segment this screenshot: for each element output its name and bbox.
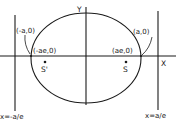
right-focus-name: S bbox=[123, 65, 128, 74]
left-vertex-label: (-a,0) bbox=[16, 27, 35, 35]
y-axis-label: Y bbox=[76, 5, 82, 14]
right-vertex-label: (a,0) bbox=[133, 28, 150, 36]
left-focus-point bbox=[44, 61, 47, 64]
right-focus-point bbox=[125, 61, 128, 64]
left-directrix-label: x=-a/e bbox=[0, 113, 24, 121]
right-vertex-leader bbox=[142, 37, 152, 55]
left-vertex-point bbox=[30, 55, 32, 57]
left-vertex-leader bbox=[25, 35, 30, 54]
ellipse-diagram: Y X (-a,0) (a,0) (-ae,0) (ae,0) S' S x=-… bbox=[0, 0, 176, 133]
right-focus-coord-label: (ae,0) bbox=[112, 47, 133, 55]
x-axis-label: X bbox=[161, 59, 166, 68]
left-focus-coord-label: (-ae,0) bbox=[33, 47, 57, 55]
left-focus-name: S' bbox=[41, 65, 48, 74]
right-directrix-label: x=a/e bbox=[145, 112, 166, 120]
right-vertex-point bbox=[140, 55, 142, 57]
